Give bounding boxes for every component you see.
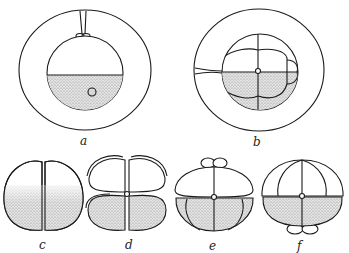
panel-a: a [19, 10, 151, 148]
panel-label-b: b [253, 135, 261, 149]
panel-label-a: a [80, 134, 87, 148]
panel-e: e [175, 158, 253, 253]
panel-b: b [194, 9, 324, 149]
panel-f: f [262, 160, 343, 253]
panel-d: d [86, 156, 167, 252]
panel-label-e: e [209, 239, 216, 253]
panel-label-c: c [39, 238, 46, 252]
cleavage-diagram: a b c [0, 0, 349, 253]
panel-c: c [3, 161, 85, 252]
panel-label-d: d [125, 238, 133, 252]
panel-label-f: f [296, 239, 304, 253]
